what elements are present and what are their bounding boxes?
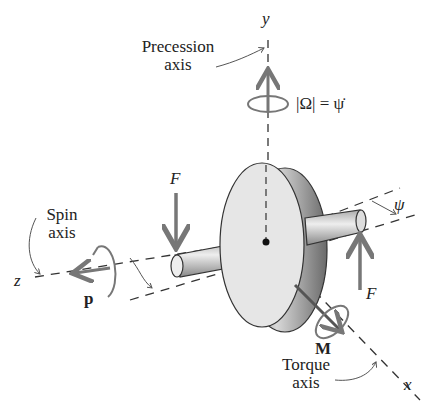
spin-arrow bbox=[75, 268, 110, 273]
psi-arc bbox=[372, 201, 396, 214]
angular-momentum-label: p bbox=[84, 290, 93, 308]
torque-axis-caption: Torque axis bbox=[268, 356, 344, 392]
z-axis-label: z bbox=[14, 272, 21, 290]
force-left-label: F bbox=[170, 170, 180, 188]
precession-rate-label: |Ω| = ψ̇ bbox=[296, 95, 344, 113]
spin-axis-caption: Spin axis bbox=[32, 206, 92, 242]
force-right-label: F bbox=[366, 285, 376, 303]
disk bbox=[220, 163, 327, 332]
center-point bbox=[263, 239, 270, 246]
spin-rotation-icon bbox=[98, 246, 115, 297]
psi-label: ψ bbox=[394, 196, 405, 214]
y-axis-label: y bbox=[262, 10, 270, 28]
precession-axis-caption: Precession axis bbox=[128, 38, 228, 74]
x-axis-label: x bbox=[404, 376, 412, 394]
